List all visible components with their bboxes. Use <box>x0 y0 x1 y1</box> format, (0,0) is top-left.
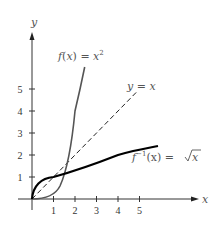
y-tick-label: 5 <box>18 84 23 95</box>
identity-label: y = x <box>126 80 156 93</box>
x-tick-label: 3 <box>94 205 99 216</box>
y-tick-label: 4 <box>18 106 23 117</box>
identity-line <box>32 92 136 199</box>
radicand: x <box>192 151 199 164</box>
y-axis-arrow-icon <box>30 32 35 40</box>
inverse-label: f−1(x) = <box>131 150 174 164</box>
x-axis-arrow-icon <box>191 197 199 202</box>
y-tick-label: 2 <box>18 150 23 161</box>
y-tick-label: 3 <box>18 128 23 139</box>
x-tick-label: 4 <box>116 205 121 216</box>
parabola-curve <box>32 67 85 199</box>
y-tick-label: 1 <box>18 172 23 183</box>
x-tick-label: 5 <box>137 205 142 216</box>
chart: y x 1 2 3 4 5 1 2 3 4 5 f <box>0 0 212 232</box>
curve-labels: f(x) = x2 y = x f−1(x) = x <box>57 49 201 164</box>
y-axis-label: y <box>30 16 38 29</box>
parabola-label: f(x) = x2 <box>57 49 104 63</box>
x-tick-label: 2 <box>73 205 78 216</box>
axes: y x <box>18 16 209 210</box>
x-tick-label: 1 <box>51 205 56 216</box>
x-axis-label: x <box>202 193 209 206</box>
